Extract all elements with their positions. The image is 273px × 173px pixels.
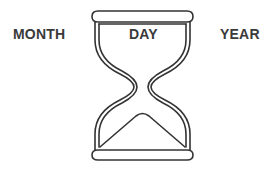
hourglass-icon bbox=[0, 0, 273, 173]
